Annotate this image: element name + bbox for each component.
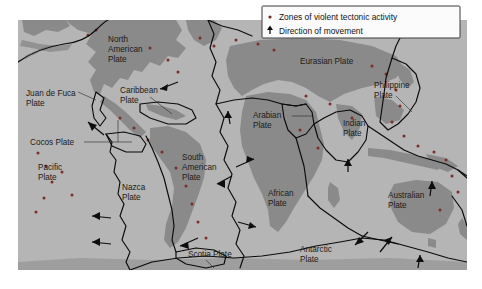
world-map-svg: Aleutian arc: [0, 0, 482, 289]
volcanic-zone-point: [35, 211, 38, 214]
volcanic-zone-point: [371, 65, 374, 68]
volcanic-zone-point: [175, 167, 178, 170]
volcanic-zone-point: [299, 129, 302, 132]
volcanic-zone-point: [329, 103, 332, 106]
volcanic-zone-point: [161, 151, 164, 154]
volcanic-zone-point: [197, 221, 200, 224]
volcanic-zone-point: [399, 105, 402, 108]
volcanic-zone-point: [185, 185, 188, 188]
plate-label-scotia: Scotia Plate: [188, 250, 232, 259]
dot-marker-icon: [268, 15, 271, 18]
legend-label-movement-direction: Direction of movement: [279, 26, 363, 36]
legend-item-movement-direction: Direction of movement: [267, 25, 363, 35]
volcanic-zone-point: [205, 237, 208, 240]
volcanic-zone-point: [317, 147, 320, 150]
tectonic-plates-figure: Aleutian arc: [0, 0, 482, 289]
volcanic-zone-point: [43, 197, 46, 200]
volcanic-zone-point: [199, 37, 202, 40]
plate-label-cocos: Cocos Plate: [30, 138, 75, 147]
plate-label-eurasian: Eurasian Plate: [300, 57, 354, 66]
volcanic-zone-point: [257, 43, 260, 46]
legend-item-volcanic-zones: Zones of violent tectonic activity: [268, 12, 398, 22]
volcanic-zone-point: [403, 135, 406, 138]
volcanic-zone-point: [305, 95, 308, 98]
volcanic-zone-point: [273, 49, 276, 52]
volcanic-zone-point: [391, 121, 394, 124]
map-body: Aleutian arc: [18, 20, 467, 270]
volcanic-zone-point: [71, 194, 74, 197]
volcanic-zone-point: [433, 151, 436, 154]
volcanic-zone-point: [37, 152, 40, 155]
legend-label-volcanic-zones: Zones of violent tectonic activity: [279, 12, 398, 22]
volcanic-zone-point: [439, 209, 442, 212]
volcanic-zone-point: [451, 175, 454, 178]
volcanic-zone-point: [149, 47, 152, 50]
volcanic-zone-point: [133, 127, 136, 130]
volcanic-zone-point: [119, 117, 122, 120]
volcanic-zone-point: [457, 191, 460, 194]
volcanic-zone-point: [213, 45, 216, 48]
volcanic-zone-point: [167, 59, 170, 62]
map-legend: Zones of violent tectonic activity Direc…: [262, 6, 460, 38]
volcanic-zone-point: [445, 159, 448, 162]
volcanic-zone-point: [235, 39, 238, 42]
volcanic-zone-point: [191, 203, 194, 206]
volcanic-zone-point: [417, 145, 420, 148]
volcanic-zone-point: [177, 71, 180, 74]
